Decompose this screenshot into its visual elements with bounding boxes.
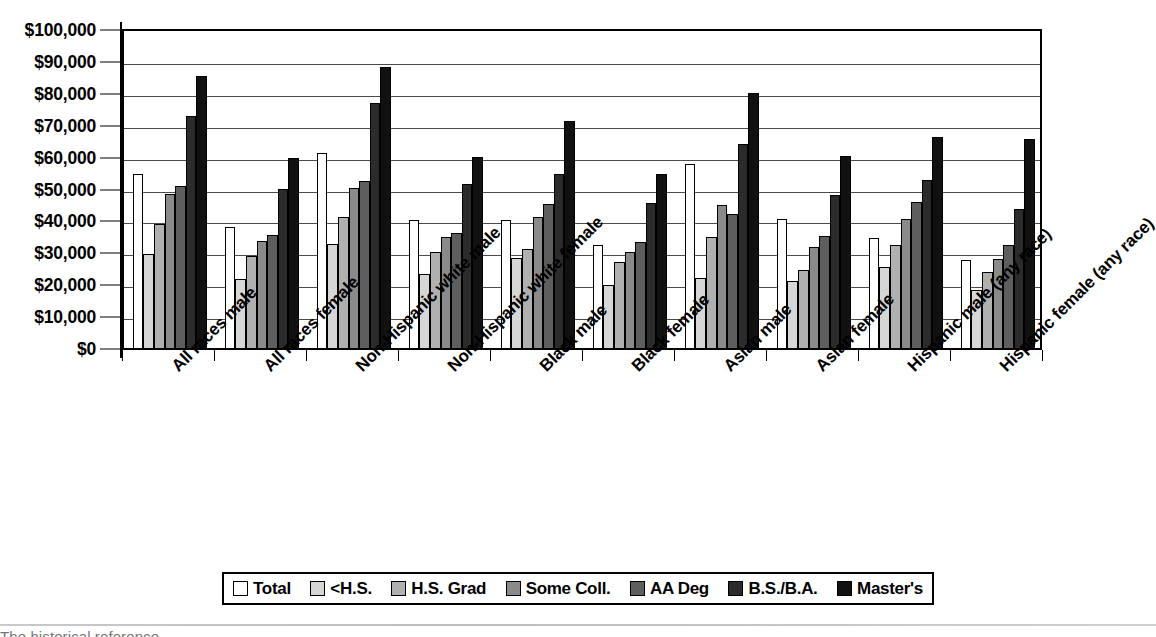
legend-label: B.S./B.A. <box>748 579 817 599</box>
legend-label: H.S. Grad <box>411 579 486 599</box>
bar-h-s-grad <box>614 262 625 348</box>
bar-master-s <box>380 67 391 348</box>
y-axis-tick-label: $0 <box>77 339 96 360</box>
figure-container: $100,000$90,000$80,000$70,000$60,000$50,… <box>0 0 1156 637</box>
x-axis-tick <box>214 350 215 361</box>
legend-swatch-icon <box>837 581 852 596</box>
bar-group <box>593 31 667 348</box>
y-axis-tick-label: $10,000 <box>34 307 96 328</box>
y-axis-tick-label: $80,000 <box>34 83 96 104</box>
y-axis-tick-mark <box>100 125 122 126</box>
x-axis-tick <box>766 350 767 361</box>
x-axis-tick <box>1042 350 1043 361</box>
x-axis-tick <box>674 350 675 361</box>
y-axis-tick-label: $30,000 <box>34 243 96 264</box>
legend-swatch-icon <box>391 581 406 596</box>
legend-item[interactable]: Some Coll. <box>506 579 611 599</box>
legend-item[interactable]: <H.S. <box>310 579 372 599</box>
bar-master-s <box>196 76 207 348</box>
x-axis-tick <box>122 350 123 361</box>
legend-label: AA Deg <box>650 579 709 599</box>
y-axis-tick-mark <box>100 30 122 31</box>
bar-aa-deg <box>727 214 738 348</box>
y-axis-tick-mark <box>100 221 122 222</box>
bar-some-coll <box>809 247 820 348</box>
legend-label: <H.S. <box>330 579 372 599</box>
caption-divider <box>0 624 1156 626</box>
legend-item[interactable]: AA Deg <box>630 579 709 599</box>
bar-aa-deg <box>175 186 186 348</box>
plot-frame <box>122 29 1042 350</box>
bar-total <box>133 174 144 348</box>
bar-h-s-grad <box>154 224 165 348</box>
y-axis-tick-mark <box>100 349 122 350</box>
plot-area <box>124 31 1040 348</box>
y-axis-tick-mark <box>100 285 122 286</box>
y-axis-tick-mark <box>100 317 122 318</box>
y-axis-tick-label: $20,000 <box>34 275 96 296</box>
x-axis-tick <box>306 350 307 361</box>
bar-some-coll <box>625 252 636 348</box>
y-axis-tick-mark <box>100 93 122 94</box>
bar-h-s <box>143 254 154 348</box>
caption-text: The historical reference <box>0 628 1156 637</box>
legend-swatch-icon <box>310 581 325 596</box>
bar-b-s-b-a <box>370 103 381 348</box>
chart-legend: Total<H.S.H.S. GradSome Coll.AA DegB.S./… <box>222 572 934 605</box>
bar-some-coll <box>165 194 176 348</box>
y-axis-tick-label: $40,000 <box>34 211 96 232</box>
bar-some-coll <box>901 219 912 348</box>
y-axis-tick-mark <box>100 253 122 254</box>
y-axis-tick-mark <box>100 189 122 190</box>
bar-aa-deg <box>635 242 646 348</box>
x-axis-tick <box>490 350 491 361</box>
bar-master-s <box>748 93 759 348</box>
y-axis-tick-label: $50,000 <box>34 179 96 200</box>
bar-b-s-b-a <box>186 116 197 348</box>
legend-swatch-icon <box>630 581 645 596</box>
bar-master-s <box>288 158 299 348</box>
legend-swatch-icon <box>728 581 743 596</box>
y-axis-tick-mark <box>100 61 122 62</box>
bar-aa-deg <box>359 181 370 348</box>
bar-some-coll <box>349 188 360 348</box>
legend-label: Total <box>253 579 291 599</box>
bar-group <box>777 31 851 348</box>
x-axis-tick <box>582 350 583 361</box>
bar-h-s-grad <box>798 270 809 348</box>
legend-item[interactable]: B.S./B.A. <box>728 579 817 599</box>
y-axis: $100,000$90,000$80,000$70,000$60,000$50,… <box>0 29 122 350</box>
legend-label: Some Coll. <box>526 579 611 599</box>
bar-b-s-b-a <box>922 180 933 348</box>
bar-some-coll <box>717 205 728 348</box>
y-axis-tick-label: $60,000 <box>34 147 96 168</box>
legend-swatch-icon <box>233 581 248 596</box>
bar-master-s <box>932 137 943 348</box>
bar-b-s-b-a <box>738 144 749 348</box>
bar-b-s-b-a <box>646 203 657 348</box>
bar-aa-deg <box>911 202 922 348</box>
legend-item[interactable]: Total <box>233 579 291 599</box>
bar-group <box>133 31 207 348</box>
bar-total <box>593 245 604 348</box>
bar-aa-deg <box>451 233 462 348</box>
legend-label: Master's <box>857 579 923 599</box>
x-axis-tick <box>858 350 859 361</box>
bar-master-s <box>656 174 667 348</box>
legend-swatch-icon <box>506 581 521 596</box>
bar-b-s-b-a <box>278 189 289 348</box>
x-axis-tick <box>950 350 951 361</box>
bar-aa-deg <box>819 236 830 348</box>
bar-master-s <box>840 156 851 348</box>
y-axis-tick-label: $70,000 <box>34 115 96 136</box>
y-axis-tick-label: $100,000 <box>25 20 96 41</box>
y-axis-tick-label: $90,000 <box>34 51 96 72</box>
legend-item[interactable]: H.S. Grad <box>391 579 486 599</box>
bar-aa-deg <box>267 235 278 348</box>
bar-h-s-grad <box>706 237 717 348</box>
legend-item[interactable]: Master's <box>837 579 923 599</box>
y-axis-tick-mark <box>100 157 122 158</box>
bar-b-s-b-a <box>830 195 841 348</box>
x-axis-tick <box>398 350 399 361</box>
